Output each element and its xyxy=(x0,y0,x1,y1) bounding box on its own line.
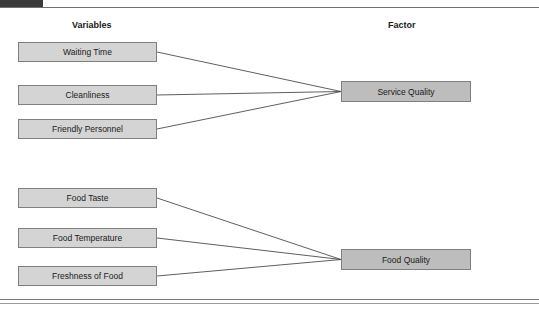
link-friendly-personnel-service-quality xyxy=(157,92,341,130)
bottom-divider-secondary xyxy=(0,303,539,304)
variable-box-waiting-time[interactable]: Waiting Time xyxy=(18,42,157,62)
bottom-divider-primary xyxy=(0,299,539,300)
factor-box-food-quality[interactable]: Food Quality xyxy=(341,249,471,270)
variable-box-freshness-of-food[interactable]: Freshness of Food xyxy=(18,266,157,286)
factor-box-service-quality[interactable]: Service Quality xyxy=(341,81,471,102)
variable-box-cleanliness[interactable]: Cleanliness xyxy=(18,85,157,105)
link-waiting-time-service-quality xyxy=(157,52,341,92)
link-food-taste-food-quality xyxy=(157,198,341,260)
variable-box-food-temperature[interactable]: Food Temperature xyxy=(18,228,157,248)
variable-box-friendly-personnel[interactable]: Friendly Personnel xyxy=(18,119,157,139)
link-food-temperature-food-quality xyxy=(157,238,341,260)
diagram-page: Variables Factor Waiting Time Cleanlines… xyxy=(0,0,539,312)
link-freshness-of-food-food-quality xyxy=(157,260,341,277)
link-cleanliness-service-quality xyxy=(157,92,341,96)
variable-box-food-taste[interactable]: Food Taste xyxy=(18,188,157,208)
